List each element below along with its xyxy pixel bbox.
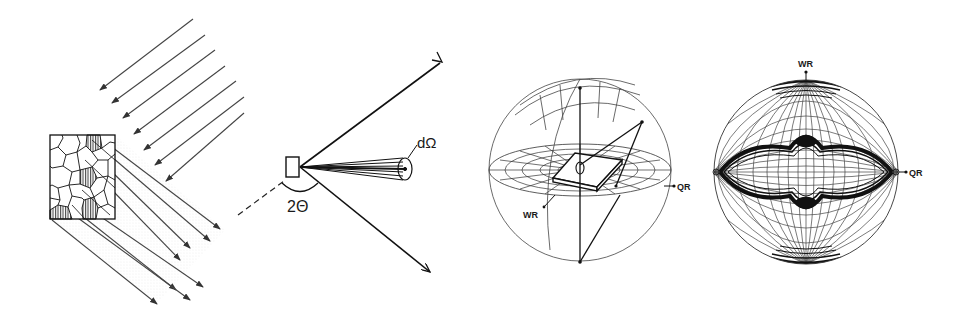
solid-angle-cone (300, 145, 417, 180)
qr-axis-label-sphere: QR (677, 182, 691, 192)
polycrystal-panel (0, 0, 260, 316)
wr-axis-label-pole-figure: WR (798, 59, 813, 69)
sample-plate (553, 153, 622, 191)
diffraction-texture-figure: dΩ 2Θ (0, 0, 957, 316)
sample-block (286, 157, 299, 177)
pole-figure-outline (714, 80, 898, 264)
texture-contours (720, 81, 892, 263)
scattering-angle-label: 2Θ (287, 198, 308, 215)
scattered-beam (300, 167, 430, 272)
scattering-angle-arc (282, 183, 318, 192)
incoming-beam (300, 63, 440, 167)
reference-sphere (489, 79, 671, 261)
qr-axis-label-pole-figure: QR (909, 168, 923, 178)
wr-axis-label-sphere: WR (523, 210, 538, 220)
grain-aggregate (50, 135, 115, 219)
solid-angle-label: dΩ (417, 134, 437, 151)
